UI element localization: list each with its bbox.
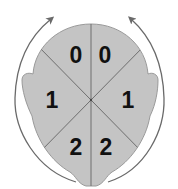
sector-label-front-right: 0 (99, 42, 112, 68)
sector-label-back-left: 2 (70, 134, 83, 160)
sector-label-back-right: 2 (100, 134, 113, 160)
sector-label-middle-right: 1 (122, 87, 135, 113)
sector-label-front-left: 0 (70, 42, 83, 68)
sector-label-middle-left: 1 (46, 87, 59, 113)
center-point (90, 99, 92, 101)
head-sector-diagram: 0 0 1 1 2 2 (0, 0, 178, 189)
